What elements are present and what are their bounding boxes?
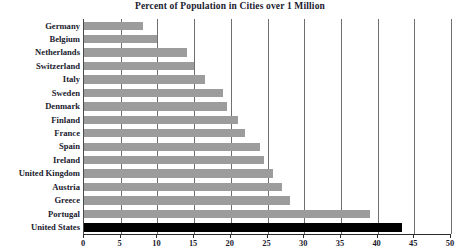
x-tick-label-10: 10 — [141, 239, 171, 248]
y-axis-label-spain: Spain — [0, 141, 80, 151]
bar-italy — [84, 75, 205, 83]
y-axis-label-germany: Germany — [0, 21, 80, 31]
x-tick-mark-45 — [413, 234, 414, 238]
chart-title: Percent of Population in Cities over 1 M… — [0, 1, 460, 11]
bar-germany — [84, 22, 143, 30]
bar-row — [84, 19, 451, 33]
bar-portugal — [84, 210, 370, 218]
x-tick-label-40: 40 — [362, 239, 392, 248]
x-tick-mark-35 — [340, 234, 341, 238]
y-axis-label-italy: Italy — [0, 74, 80, 84]
bar-finland — [84, 116, 238, 124]
y-axis-label-austria: Austria — [0, 182, 80, 192]
y-axis-label-switzerland: Switzerland — [0, 61, 80, 71]
x-tick-mark-30 — [303, 234, 304, 238]
bar-row — [84, 127, 451, 141]
x-tick-mark-15 — [193, 234, 194, 238]
x-tick-mark-50 — [450, 234, 451, 238]
bar-switzerland — [84, 62, 194, 70]
y-axis-category-labels: GermanyBelgiumNetherlandsSwitzerlandItal… — [0, 19, 80, 234]
bar-row — [84, 140, 451, 154]
x-tick-mark-0 — [83, 234, 84, 238]
bar-spain — [84, 143, 260, 151]
y-axis-label-portugal: Portugal — [0, 209, 80, 219]
bar-france — [84, 129, 245, 137]
x-axis-tick-labels: 05101520253035404550 — [0, 234, 460, 252]
x-tick-mark-5 — [120, 234, 121, 238]
gridline-50 — [451, 19, 452, 234]
x-tick-label-0: 0 — [68, 239, 98, 248]
bar-row — [84, 86, 451, 100]
x-tick-mark-40 — [377, 234, 378, 238]
y-axis-label-united-states: United States — [0, 222, 80, 232]
bar-row — [84, 100, 451, 114]
y-axis-label-netherlands: Netherlands — [0, 47, 80, 57]
y-axis-label-finland: Finland — [0, 115, 80, 125]
bar-row — [84, 207, 451, 221]
y-axis-label-denmark: Denmark — [0, 101, 80, 111]
bar-chart: Percent of Population in Cities over 1 M… — [0, 0, 460, 252]
x-tick-mark-20 — [230, 234, 231, 238]
bar-row — [84, 113, 451, 127]
y-axis-label-sweden: Sweden — [0, 88, 80, 98]
y-axis-label-ireland: Ireland — [0, 155, 80, 165]
bar-row — [84, 153, 451, 167]
x-tick-label-50: 50 — [435, 239, 460, 248]
bar-netherlands — [84, 48, 187, 56]
bar-austria — [84, 183, 282, 191]
bar-row — [84, 59, 451, 73]
bar-row — [84, 32, 451, 46]
x-tick-label-35: 35 — [325, 239, 355, 248]
x-tick-label-5: 5 — [105, 239, 135, 248]
y-axis-label-belgium: Belgium — [0, 34, 80, 44]
bar-united-states — [84, 223, 402, 232]
y-axis-label-greece: Greece — [0, 195, 80, 205]
x-tick-label-20: 20 — [215, 239, 245, 248]
bar-row — [84, 180, 451, 194]
y-axis-label-france: France — [0, 128, 80, 138]
x-tick-mark-25 — [267, 234, 268, 238]
plot-area — [83, 19, 451, 235]
bar-sweden — [84, 89, 223, 97]
x-tick-mark-10 — [156, 234, 157, 238]
bar-row — [84, 221, 451, 235]
bar-united-kingdom — [84, 169, 273, 177]
bar-greece — [84, 196, 290, 204]
bar-ireland — [84, 156, 264, 164]
x-tick-label-15: 15 — [178, 239, 208, 248]
y-axis-label-united-kingdom: United Kingdom — [0, 168, 80, 178]
bar-row — [84, 167, 451, 181]
x-tick-label-45: 45 — [398, 239, 428, 248]
bar-row — [84, 194, 451, 208]
x-tick-label-30: 30 — [288, 239, 318, 248]
bar-row — [84, 73, 451, 87]
bar-row — [84, 46, 451, 60]
bar-belgium — [84, 35, 157, 43]
bar-denmark — [84, 102, 227, 110]
x-tick-label-25: 25 — [252, 239, 282, 248]
